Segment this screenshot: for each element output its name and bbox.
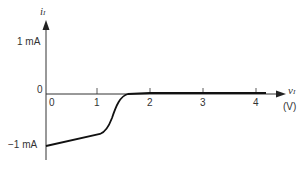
y-tick-label-pos: 1 mA (17, 37, 40, 47)
y-axis-arrow-icon (43, 20, 50, 30)
x-tick-label: 1 (94, 98, 100, 108)
x-tick-label: 3 (200, 98, 206, 108)
chart-plot (0, 0, 304, 172)
x-tick-label: 2 (147, 98, 153, 108)
x-axis-label: vI (288, 85, 295, 96)
y-tick-label-neg: −1 mA (8, 140, 37, 150)
y-tick-label-zero: 0 (37, 85, 43, 95)
y-axis-label: iI (40, 6, 45, 17)
x-axis-unit: (V) (283, 102, 296, 112)
x-tick-label: 0 (49, 98, 55, 108)
iv-curve (46, 93, 266, 146)
x-axis-arrow-icon (276, 91, 286, 98)
x-tick-label: 4 (253, 98, 259, 108)
